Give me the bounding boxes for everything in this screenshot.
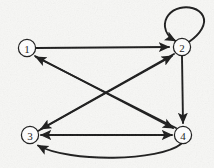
node-1-label: 1	[24, 43, 30, 55]
node-1[interactable]: 1	[18, 39, 35, 56]
graph-canvas: 1 2 3 4	[0, 0, 214, 168]
node-4[interactable]: 4	[174, 126, 191, 143]
node-2-label: 2	[179, 42, 185, 54]
node-2[interactable]: 2	[173, 38, 190, 55]
node-4-label: 4	[180, 130, 186, 142]
node-3-label: 3	[27, 130, 33, 142]
edge-2-to-4	[182, 56, 183, 123]
graph-figure: 1 2 3 4	[0, 0, 214, 168]
node-3[interactable]: 3	[21, 126, 38, 143]
edge-1-to-2	[36, 47, 169, 48]
